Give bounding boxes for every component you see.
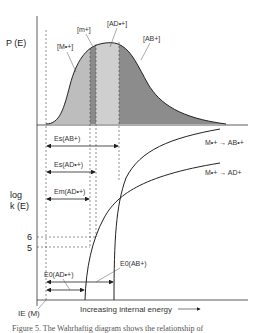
- label-m-radical: [M•+]: [57, 43, 73, 51]
- x-axis-label: Increasing internal energy: [80, 305, 172, 314]
- k-e-label: k (E): [10, 201, 29, 211]
- region-ab-plus: [119, 30, 229, 130]
- figure-caption: Figure 5. The Wahrhaftig diagram shows t…: [12, 324, 204, 333]
- tick-6: 6: [27, 232, 32, 242]
- wahrhaftig-diagram: P (E) [M•+] [m+] [AD•+] [AB+] log k (E) …: [0, 0, 260, 333]
- curve-ad-plus: [85, 163, 220, 300]
- em-ad-label: Em(AD•+): [54, 188, 85, 196]
- es-ab-label: Es(AB+): [54, 135, 80, 143]
- curve-label-ab: M•+ → AB•+: [205, 139, 244, 146]
- region-ad-radical-cation: [96, 30, 119, 130]
- ie-m-label: IE (M): [18, 309, 40, 318]
- region-m-plus: [90, 30, 96, 130]
- label-m-plus: [m+]: [77, 26, 91, 34]
- probability-distribution: [46, 30, 229, 130]
- e0-ad-label: E0(AD•+): [44, 271, 74, 279]
- log-label: log: [10, 190, 22, 200]
- label-ab-plus: [AB+]: [143, 35, 160, 43]
- tick-5: 5: [27, 243, 32, 253]
- curve-label-ad: M•+ → AD+: [205, 169, 242, 176]
- es-ad-label: Es(AD•+): [54, 161, 83, 169]
- e0-ab-label: E0(AB+): [120, 260, 147, 268]
- curve-ab-radical: [114, 129, 220, 300]
- p-e-label: P (E): [6, 38, 26, 48]
- label-ad-radical: [AD•+]: [107, 20, 127, 28]
